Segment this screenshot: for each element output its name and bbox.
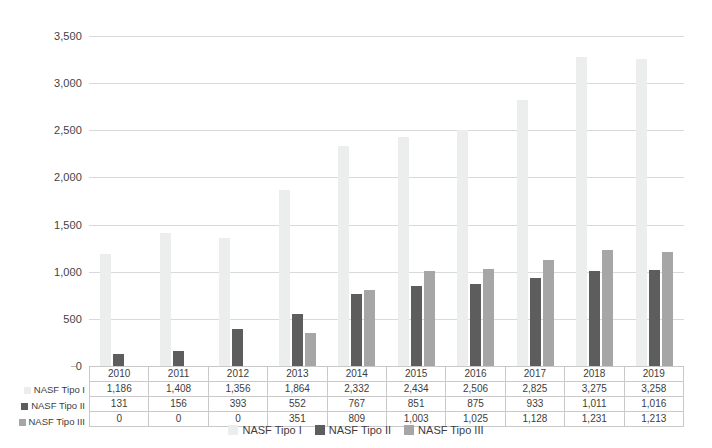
bar[interactable] xyxy=(113,354,124,366)
table-cell: 552 xyxy=(268,397,327,412)
table-row: 2010201120122013201420152016201720182019 xyxy=(90,367,684,382)
bar-group xyxy=(576,36,613,366)
bar-group xyxy=(100,36,137,366)
bar[interactable] xyxy=(364,290,375,366)
bar[interactable] xyxy=(292,314,303,366)
bar-group xyxy=(398,36,435,366)
table-header-cell: 2014 xyxy=(327,367,386,382)
table-cell: 1,864 xyxy=(268,382,327,397)
bar[interactable] xyxy=(411,286,422,366)
row-header-label: NASF Tipo II xyxy=(31,398,85,414)
y-axis-tick-mark xyxy=(71,83,76,84)
bar-group xyxy=(338,36,375,366)
table-header-cell: 2011 xyxy=(149,367,208,382)
bar-group xyxy=(279,36,316,366)
series-swatch-icon xyxy=(21,403,28,410)
table-header-cell: 2017 xyxy=(505,367,564,382)
bar[interactable] xyxy=(649,270,660,366)
bar[interactable] xyxy=(543,260,554,366)
bar[interactable] xyxy=(424,271,435,366)
table-cell: 1,011 xyxy=(565,397,624,412)
table-row: 1311563935527678518759331,0111,016 xyxy=(90,397,684,412)
chart-legend: NASF Tipo INASF Tipo IINASF Tipo III xyxy=(0,424,712,436)
bar[interactable] xyxy=(636,59,647,366)
row-header: NASF Tipo II xyxy=(0,398,89,414)
legend-item[interactable]: NASF Tipo I xyxy=(228,424,301,436)
table-row: 1,1861,4081,3561,8642,3322,4342,5062,825… xyxy=(90,382,684,397)
legend-label: NASF Tipo III xyxy=(418,424,483,436)
legend-item[interactable]: NASF Tipo III xyxy=(404,424,483,436)
bar[interactable] xyxy=(662,252,673,366)
legend-swatch-icon xyxy=(404,425,414,435)
data-table-row-headers: .NASF Tipo INASF Tipo IINASF Tipo III xyxy=(0,366,89,430)
bar[interactable] xyxy=(100,254,111,366)
table-cell: 2,332 xyxy=(327,382,386,397)
bar[interactable] xyxy=(530,278,541,366)
table-cell: 1,186 xyxy=(90,382,149,397)
table-cell: 2,825 xyxy=(505,382,564,397)
y-axis-tick-mark xyxy=(71,36,76,37)
legend-swatch-icon xyxy=(315,425,325,435)
table-header-cell: 2010 xyxy=(90,367,149,382)
y-axis-tick-mark xyxy=(71,177,76,178)
bar-chart: 05001,0001,5002,0002,5003,0003,500 .NASF… xyxy=(0,0,712,448)
table-cell: 875 xyxy=(446,397,505,412)
table-cell: 156 xyxy=(149,397,208,412)
row-header-label: NASF Tipo I xyxy=(34,382,85,398)
legend-item[interactable]: NASF Tipo II xyxy=(315,424,391,436)
bar[interactable] xyxy=(602,250,613,366)
plot-area xyxy=(89,36,684,366)
bar[interactable] xyxy=(305,333,316,366)
table-header-cell: 2018 xyxy=(565,367,624,382)
table-cell: 131 xyxy=(90,397,149,412)
bar[interactable] xyxy=(589,271,600,366)
table-cell: 1,356 xyxy=(208,382,267,397)
y-axis: 05001,0001,5002,0002,5003,0003,500 xyxy=(0,36,82,366)
table-header-cell: 2019 xyxy=(624,367,683,382)
bar[interactable] xyxy=(279,190,290,366)
bar[interactable] xyxy=(173,351,184,366)
bar[interactable] xyxy=(470,284,481,367)
table-cell: 2,434 xyxy=(386,382,445,397)
table-cell: 1,408 xyxy=(149,382,208,397)
bar-group xyxy=(160,36,197,366)
table-cell: 851 xyxy=(386,397,445,412)
table-cell: 1,016 xyxy=(624,397,683,412)
bar[interactable] xyxy=(351,294,362,366)
bar[interactable] xyxy=(483,269,494,366)
series-swatch-icon xyxy=(24,387,31,394)
bar-group xyxy=(219,36,256,366)
bar[interactable] xyxy=(232,329,243,366)
bar-group xyxy=(457,36,494,366)
legend-label: NASF Tipo I xyxy=(242,424,301,436)
table-header-cell: 2015 xyxy=(386,367,445,382)
bar-group xyxy=(517,36,554,366)
table-header-cell: 2016 xyxy=(446,367,505,382)
legend-swatch-icon xyxy=(228,425,238,435)
table-cell: 393 xyxy=(208,397,267,412)
y-axis-tick-mark xyxy=(71,225,76,226)
table-header-cell: 2013 xyxy=(268,367,327,382)
row-header: NASF Tipo I xyxy=(0,382,89,398)
table-cell: 2,506 xyxy=(446,382,505,397)
legend-label: NASF Tipo II xyxy=(329,424,391,436)
bar[interactable] xyxy=(457,130,468,366)
table-cell: 933 xyxy=(505,397,564,412)
y-axis-tick-mark xyxy=(71,272,76,273)
bar[interactable] xyxy=(576,57,587,366)
table-header-cell: 2012 xyxy=(208,367,267,382)
bar-group xyxy=(636,36,673,366)
bar[interactable] xyxy=(219,238,230,366)
y-axis-tick-mark xyxy=(71,130,76,131)
data-table: 2010201120122013201420152016201720182019… xyxy=(89,366,684,427)
table-cell: 767 xyxy=(327,397,386,412)
table-cell: 3,275 xyxy=(565,382,624,397)
bar[interactable] xyxy=(160,233,171,366)
bar[interactable] xyxy=(517,100,528,366)
bar[interactable] xyxy=(338,146,349,366)
table-cell: 3,258 xyxy=(624,382,683,397)
bar[interactable] xyxy=(398,137,409,366)
y-axis-tick-mark xyxy=(71,319,76,320)
